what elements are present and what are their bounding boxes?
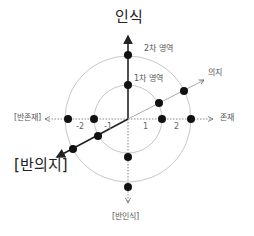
label-diag-up: 의지: [208, 69, 222, 77]
label-up: 인식: [115, 10, 143, 25]
label-inner-ring: 1차 영역: [134, 75, 163, 83]
label-diag-down: [반의지]: [14, 158, 68, 173]
tick-neg2: -2: [76, 123, 84, 131]
label-left: [반존재]: [14, 114, 41, 122]
tick-pos1: 1: [143, 123, 148, 131]
label-right: 존재: [220, 114, 234, 122]
points: [64, 51, 195, 191]
label-outer-ring: 2차 영역: [144, 45, 173, 53]
axis-diag-up: [128, 80, 204, 119]
label-down: [반인식]: [112, 213, 139, 221]
tick-pos2: 2: [174, 123, 179, 131]
tick-neg1: -1: [104, 123, 112, 131]
